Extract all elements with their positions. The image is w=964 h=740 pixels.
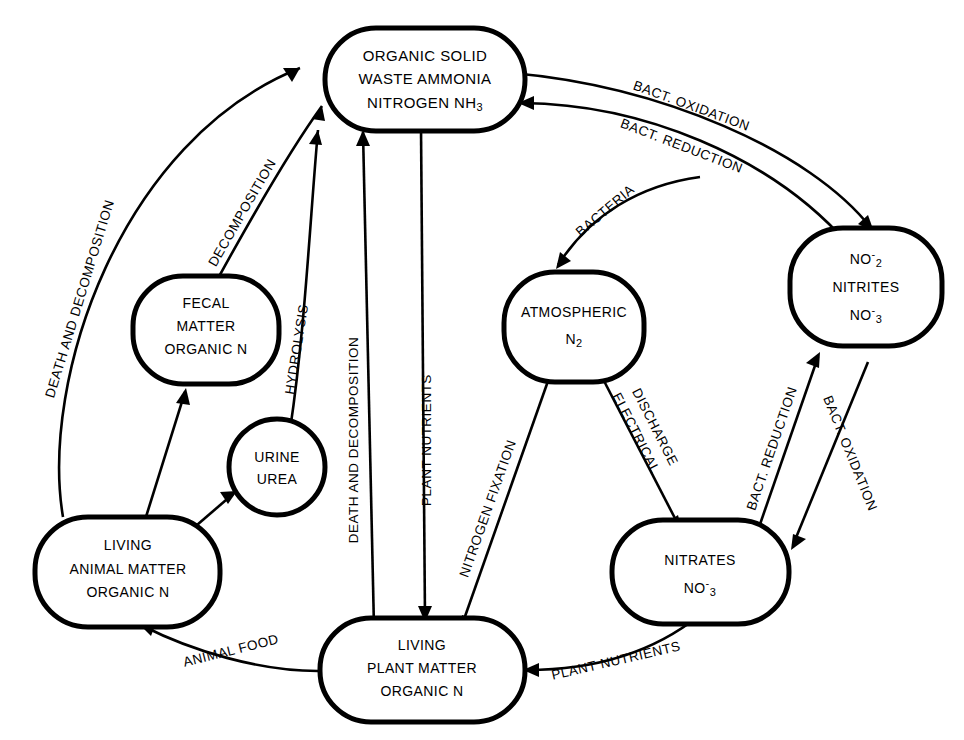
- node-line-2: NITRITES: [833, 279, 900, 295]
- node-line-2: MATTER: [177, 318, 236, 334]
- node-living-plant-matter-organic-n[interactable]: LIVING PLANT MATTER ORGANIC N: [320, 618, 525, 722]
- edge-label-e2: DECOMPOSITION: [205, 156, 279, 269]
- edge-label-e5: PLANT NUTRIENTS: [419, 374, 434, 506]
- node-line-3: ORGANIC N: [381, 683, 464, 699]
- arrowhead-icon: [556, 252, 571, 269]
- edge-path: [522, 103, 848, 244]
- arrowhead-icon: [312, 106, 325, 121]
- node-atmospheric-n2[interactable]: ATMOSPHERIC N2: [504, 272, 644, 382]
- node-living-animal-matter-organic-n[interactable]: LIVING ANIMAL MATTER ORGANIC N: [35, 517, 220, 627]
- arrowhead-icon: [309, 130, 322, 145]
- edge-path: [363, 132, 374, 628]
- node-line-1: LIVING: [398, 637, 446, 653]
- edge-hydrolysis-urine-to-ammonia: HYDROLYSIS: [282, 130, 322, 430]
- arrowhead-icon: [791, 534, 806, 550]
- node-line-1: FECAL: [182, 295, 229, 311]
- edge-nitrogen-fixation-atmospheric-to-plant: NITROGEN FIXATION: [457, 381, 548, 630]
- edge-animal-to-fecal: [145, 388, 190, 520]
- edge-path: [421, 128, 425, 618]
- cycle-canvas: DEATH AND DECOMPOSITION DECOMPOSITION HY…: [0, 0, 964, 740]
- nitrogen-cycle-diagram: DEATH AND DECOMPOSITION DECOMPOSITION HY…: [0, 0, 964, 740]
- node-shape: [229, 419, 325, 515]
- node-nitrites-no2-no3[interactable]: NO-2 NITRITES NO-3: [790, 228, 942, 346]
- edge-path: [145, 392, 185, 520]
- node-line-3: ORGANIC N: [87, 584, 170, 600]
- node-nitrates-no3[interactable]: NITRATES NO-3: [612, 520, 789, 624]
- edge-electrical-discharge-atmospheric-to-nitrates: ELECTRICAL DISCHARGE: [603, 379, 682, 532]
- node-line-3: ORGANIC N: [165, 341, 248, 357]
- edge-bact-oxidation-nitrites-to-nitrates: BACT. OXIDATION: [791, 362, 880, 550]
- edge-label-e11: BACTERIA: [573, 182, 637, 239]
- edge-label-e3: HYDROLYSIS: [282, 303, 311, 395]
- edge-animal-food-plant-to-animal: ANIMAL FOOD: [139, 623, 322, 671]
- edge-label-e1: DEATH AND DECOMPOSITION: [42, 198, 117, 400]
- arrowhead-icon: [176, 388, 190, 405]
- node-line-1: LIVING: [104, 537, 152, 553]
- node-line-1: ATMOSPHERIC: [521, 304, 627, 320]
- node-urine-urea[interactable]: URINE UREA: [229, 419, 325, 515]
- edge-label-e12: NITROGEN FIXATION: [457, 438, 519, 579]
- edge-label-e16: PLANT NUTRIENTS: [550, 638, 682, 682]
- node-line-1: NITRATES: [664, 552, 735, 568]
- node-organic-solid-waste-ammonia[interactable]: ORGANIC SOLID WASTE AMMONIA NITROGEN NH3: [325, 28, 525, 131]
- node-line-2: ANIMAL MATTER: [69, 561, 186, 577]
- node-shape: [504, 272, 644, 382]
- edge-label-e4: DEATH AND DECOMPOSITION: [346, 337, 361, 543]
- node-line-1: ORGANIC SOLID: [363, 47, 487, 64]
- edge-bacteria-to-atmospheric: BACTERIA: [556, 177, 700, 269]
- edge-path: [462, 381, 548, 625]
- edge-bact-reduction-nitrites-to-nitrates: BACT. REDUCTION: [744, 352, 820, 530]
- node-fecal-matter-organic-n[interactable]: FECAL MATTER ORGANIC N: [133, 276, 279, 384]
- edge-bact-reduction-nitrites-to-ammonia: BACT. REDUCTION: [518, 96, 848, 244]
- node-line-2: WASTE AMMONIA: [359, 70, 492, 87]
- arrowhead-icon: [806, 352, 820, 368]
- node-line-2: PLANT MATTER: [367, 660, 477, 676]
- edge-death-and-decomposition-plant-to-ammonia: DEATH AND DECOMPOSITION: [346, 130, 374, 628]
- node-line-1: URINE: [254, 449, 300, 465]
- edge-label-e8: ANIMAL FOOD: [182, 632, 281, 670]
- edge-plant-nutrients-ammonia-to-plant: PLANT NUTRIENTS: [418, 128, 434, 622]
- node-line-3: NITROGEN NH3: [367, 94, 483, 113]
- node-line-2: UREA: [257, 471, 298, 487]
- edge-path: [216, 106, 322, 282]
- node-shape: [612, 520, 789, 624]
